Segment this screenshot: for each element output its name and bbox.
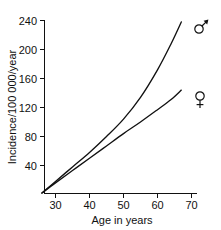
mars-symbol xyxy=(195,20,209,34)
y-axis-title: Incidence/100 000/year xyxy=(6,49,18,164)
y-tick-label-240: 240 xyxy=(19,15,37,27)
y-tick-marks xyxy=(40,21,45,166)
incidence-by-age-chart: 240 200 160 120 80 40 30 40 50 60 70 Age… xyxy=(0,0,221,230)
x-tick-label-40: 40 xyxy=(83,199,95,211)
x-tick-marks xyxy=(56,194,192,199)
x-tick-labels: 30 40 50 60 70 xyxy=(49,199,197,211)
x-tick-label-30: 30 xyxy=(49,199,61,211)
venus-symbol xyxy=(196,92,204,108)
y-tick-label-40: 40 xyxy=(25,160,37,172)
y-tick-label-120: 120 xyxy=(19,102,37,114)
venus-circle xyxy=(196,92,204,100)
x-tick-label-50: 50 xyxy=(117,199,129,211)
axes-group xyxy=(45,20,198,194)
x-tick-label-70: 70 xyxy=(185,199,197,211)
chart-canvas: 240 200 160 120 80 40 30 40 50 60 70 Age… xyxy=(0,0,221,230)
y-tick-label-200: 200 xyxy=(19,44,37,56)
y-tick-labels: 240 200 160 120 80 40 xyxy=(19,15,37,172)
y-tick-label-80: 80 xyxy=(25,131,37,143)
y-tick-label-160: 160 xyxy=(19,73,37,85)
series-curve-female xyxy=(42,90,181,193)
x-axis-title: Age in years xyxy=(91,214,153,226)
series-curves xyxy=(42,22,181,193)
mars-circle xyxy=(195,25,203,33)
x-tick-label-60: 60 xyxy=(151,199,163,211)
